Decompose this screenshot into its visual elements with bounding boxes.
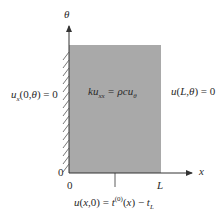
governing-equation: kuxx = ρcuθ (88, 86, 137, 100)
insulated-wall-hatching (63, 52, 69, 172)
domain-rectangle (69, 45, 161, 173)
right-boundary-condition: u(L,θ) = 0 (171, 86, 215, 97)
diagram-canvas (0, 0, 222, 218)
x-end-tick-L: L (157, 180, 163, 191)
left-boundary-condition: ux(0,θ) = 0 (11, 89, 58, 103)
theta-axis-label: θ (64, 9, 69, 20)
origin-x-tick: 0 (67, 180, 73, 191)
origin-y-tick: 0 (58, 167, 64, 178)
bottom-boundary-condition: u(x,0) = t(0)(x) − tL (74, 196, 154, 211)
x-axis-label: x (199, 166, 204, 177)
